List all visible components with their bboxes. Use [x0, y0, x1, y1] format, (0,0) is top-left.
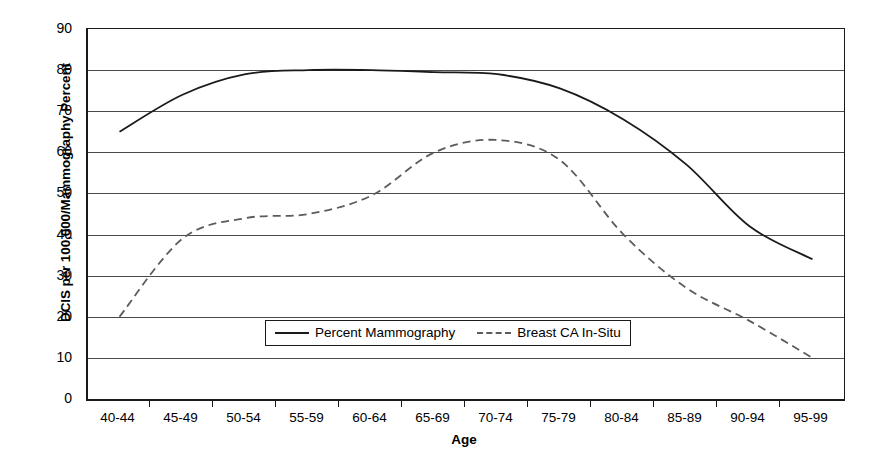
y-axis-tick-label: 70: [22, 103, 72, 117]
y-axis-tick-label-group: 9080706050403020100: [22, 18, 72, 398]
x-axis-tick-label: 70-74: [478, 410, 513, 426]
solid-line-icon: [275, 332, 309, 334]
x-axis-tick-mark: [653, 400, 654, 407]
x-axis-tick-mark: [149, 400, 150, 407]
x-axis-tick-mark: [275, 400, 276, 407]
legend-label: Breast CA In-Situ: [517, 326, 621, 340]
y-axis-tick-label: 40: [22, 227, 72, 241]
y-axis-tick-label: 90: [22, 21, 72, 35]
x-axis-tick-mark: [338, 400, 339, 407]
x-axis-tick-mark: [716, 400, 717, 407]
y-axis-tick-label: 60: [22, 144, 72, 158]
legend-entry-2: Breast CA In-Situ: [477, 326, 621, 340]
x-axis-tick-mark: [212, 400, 213, 407]
chart-legend: Percent MammographyBreast CA In-Situ: [265, 320, 631, 346]
y-axis-tick-label: 30: [22, 268, 72, 282]
x-axis-tick-label: 75-79: [541, 410, 576, 426]
x-axis-tick-mark-group: [86, 400, 842, 401]
x-axis-tick-label: 55-59: [289, 410, 324, 426]
x-axis-tick-label: 50-54: [226, 410, 261, 426]
legend-label: Percent Mammography: [315, 326, 455, 340]
x-axis-tick-label: 90-94: [730, 410, 765, 426]
x-axis-tick-label: 85-89: [667, 410, 702, 426]
x-axis-title: Age: [86, 432, 842, 447]
x-axis-tick-label: 65-69: [415, 410, 450, 426]
x-axis-tick-label: 80-84: [604, 410, 639, 426]
y-axis-tick-label: 0: [22, 391, 72, 405]
y-axis-tick-label: 20: [22, 309, 72, 323]
x-axis-tick-label: 40-44: [100, 410, 135, 426]
series-line-1: [120, 70, 813, 260]
y-axis-tick-label: 10: [22, 350, 72, 364]
x-axis-tick-label-group: 40-4445-4950-5455-5960-6465-6970-7475-79…: [86, 410, 842, 430]
x-axis-tick-mark: [527, 400, 528, 407]
line-chart: DCIS per 100,000/Mammography Percent 908…: [0, 0, 872, 469]
x-axis-tick-mark: [779, 400, 780, 407]
dashed-line-icon: [477, 332, 511, 334]
y-axis-tick-label: 80: [22, 62, 72, 76]
x-axis-tick-label: 45-49: [163, 410, 198, 426]
x-axis-tick-mark: [464, 400, 465, 407]
x-axis-tick-label: 95-99: [793, 410, 828, 426]
x-axis-tick-label: 60-64: [352, 410, 387, 426]
legend-entry-1: Percent Mammography: [275, 326, 455, 340]
y-axis-tick-label: 50: [22, 185, 72, 199]
x-axis-tick-mark: [590, 400, 591, 407]
x-axis-tick-mark: [401, 400, 402, 407]
